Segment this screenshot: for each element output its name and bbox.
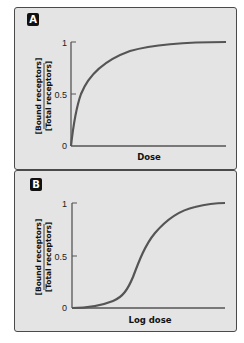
y-tick-label-1: 1	[62, 38, 67, 48]
chart-panel-a: A 1 0.5 0 [Bound receptors] [Total recep…	[14, 7, 237, 170]
y-tick-label-0: 0	[62, 303, 67, 313]
y-tick-label-1: 1	[62, 199, 67, 209]
y-tick-label-0.5: 0.5	[54, 90, 67, 100]
curve-a	[71, 42, 226, 146]
y-label-numerator: [Bound receptors]	[34, 58, 43, 135]
chart-b-plot: 1 0.5 0 [Bound receptors] [Total recepto…	[15, 171, 238, 333]
x-axis-label: Log dose	[128, 315, 171, 325]
y-tick-label-0.5: 0.5	[54, 252, 67, 262]
chart-panel-b: B 1 0.5 0 [Bound receptors] [Total recep…	[14, 170, 237, 332]
y-tick-label-0: 0	[62, 141, 67, 151]
y-label-denominator: [Total receptors]	[44, 222, 53, 293]
y-axis-label: [Bound receptors] [Total receptors]	[34, 58, 53, 135]
chart-a-plot: 1 0.5 0 [Bound receptors] [Total recepto…	[15, 8, 238, 171]
y-label-denominator: [Total receptors]	[44, 61, 53, 132]
curve-b	[72, 203, 225, 308]
y-axis-label: [Bound receptors] [Total receptors]	[34, 219, 53, 296]
y-label-numerator: [Bound receptors]	[34, 219, 43, 296]
x-axis-label: Dose	[137, 152, 161, 162]
